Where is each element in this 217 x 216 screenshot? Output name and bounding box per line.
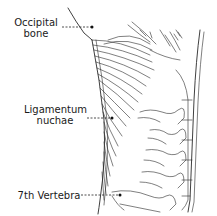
- label-occipital-bone: Occipital bone: [10, 17, 62, 39]
- occipital-hatching: [128, 22, 182, 60]
- posterior-neck-contour: [92, 40, 105, 214]
- label-line: Ligamentum: [24, 104, 86, 115]
- anatomical-illustration: Occipital bone Ligamentum nuchae 7th Ver…: [0, 0, 217, 216]
- label-line: bone: [10, 28, 62, 39]
- label-seventh-vertebra: 7th Vertebra: [16, 190, 82, 201]
- occipital-contour: [68, 8, 92, 40]
- leader-dot-vertebra: [119, 194, 122, 197]
- label-line: Occipital: [10, 17, 62, 28]
- label-ligamentum-nuchae: Ligamentum nuchae: [24, 104, 86, 126]
- label-line: 7th Vertebra: [16, 190, 82, 201]
- leader-dot-ligamentum: [111, 117, 114, 120]
- vertebral-bodies: [176, 70, 192, 210]
- label-line: nuchae: [24, 115, 86, 126]
- leader-dot-occipital: [91, 26, 94, 29]
- cervical-vertebrae: [112, 108, 186, 212]
- anterior-contour: [188, 30, 200, 212]
